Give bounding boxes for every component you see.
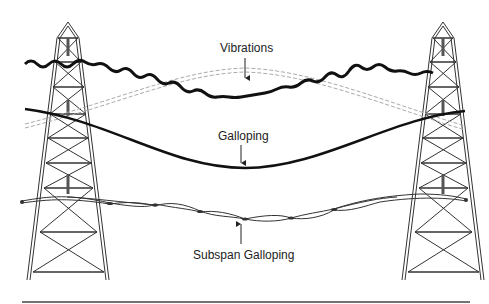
- vibrations-label: Vibrations: [220, 41, 273, 55]
- right-tower: [402, 22, 484, 280]
- subspan-galloping-label: Subspan Galloping: [193, 248, 294, 262]
- galloping-label: Galloping: [218, 129, 269, 143]
- transmission-line-diagram: Vibrations Galloping Subspan Galloping: [0, 0, 489, 304]
- vibrating-conductor: [25, 60, 433, 97]
- left-tower: [27, 22, 109, 280]
- subspan-bundle-conductor: [22, 194, 466, 221]
